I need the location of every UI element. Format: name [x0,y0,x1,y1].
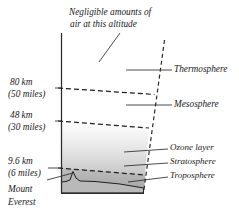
layer-label-ozone-layer: Ozone layer [170,142,214,152]
landmark-label-line-1: Mount [7,184,33,194]
atmosphere-diagram-canvas: Negligible amounts of air at this altitu… [0,0,239,213]
layer-label-troposphere: Troposphere [170,170,215,180]
annotation-line-1: Negligible amounts of [68,7,153,17]
annotation-leader-line [99,33,120,62]
annotation-line-2: air at this altitude [70,19,137,29]
atmosphere-outer-edge [144,40,165,193]
altitude-label-48km-miles: (30 miles) [8,122,45,133]
altitude-label-48km-value: 48 km [10,110,33,120]
layer-label-stratosphere: Stratosphere [170,156,216,166]
landmark-label-line-2: Everest [7,197,36,207]
atmosphere-cross-section: Negligible amounts of air at this altitu… [0,0,239,213]
boundary-80km [58,88,155,95]
altitude-label-80km-value: 80 km [10,77,33,87]
altitude-label-80km-miles: (50 miles) [8,89,45,100]
altitude-label-9_6km-miles: (6 miles) [8,168,41,179]
altitude-label-9_6km-value: 9.6 km [8,156,33,166]
layer-label-mesosphere: Mesosphere [173,99,219,109]
layer-label-thermosphere: Thermosphere [174,64,227,74]
